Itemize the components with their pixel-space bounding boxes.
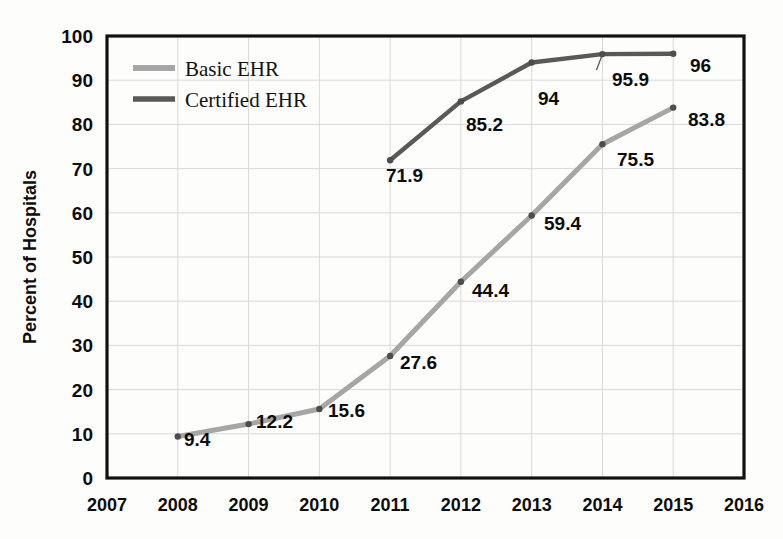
x-tick-label: 2013: [512, 495, 552, 515]
data-point-marker: [175, 433, 181, 439]
data-label-59-4: 59.4: [544, 213, 581, 234]
data-label-15-6: 15.6: [328, 400, 365, 421]
legend-label-basic-ehr: Basic EHR: [185, 57, 279, 81]
data-label-94: 94: [538, 88, 560, 109]
data-point-marker: [458, 98, 464, 104]
data-point-marker: [387, 353, 393, 359]
data-point-marker: [670, 104, 676, 110]
y-tick-label: 100: [61, 26, 93, 47]
y-tick-label: 0: [82, 468, 93, 489]
data-point-marker: [458, 279, 464, 285]
y-tick-label: 70: [72, 159, 93, 180]
data-label-95-9: 95.9: [612, 69, 649, 90]
y-tick-label: 20: [72, 380, 93, 401]
y-tick-label: 30: [72, 335, 93, 356]
data-label-9-4: 9.4: [184, 429, 211, 450]
data-point-marker: [528, 212, 534, 218]
data-label-44-4: 44.4: [472, 280, 509, 301]
line-chart: 0102030405060708090100 20072008200920102…: [0, 0, 783, 539]
data-label-27-6: 27.6: [400, 352, 437, 373]
x-tick-label: 2008: [158, 495, 198, 515]
data-label-12-2: 12.2: [256, 411, 293, 432]
x-tick-label: 2011: [371, 495, 410, 515]
x-tick-label: 2014: [582, 495, 622, 515]
data-label-75-5: 75.5: [617, 149, 654, 170]
x-tick-label: 2016: [724, 495, 764, 515]
y-tick-label: 80: [72, 114, 93, 135]
x-tick-label: 2010: [299, 495, 339, 515]
y-tick-label: 10: [72, 424, 93, 445]
y-tick-label: 40: [72, 291, 93, 312]
data-label-83-8: 83.8: [688, 109, 725, 130]
x-tick-label: 2007: [87, 495, 127, 515]
y-tick-label: 50: [72, 247, 93, 268]
legend-label-certified-ehr: Certified EHR: [185, 88, 307, 112]
x-tick-label: 2009: [229, 495, 269, 515]
data-point-marker: [599, 141, 605, 147]
x-tick-label: 2012: [441, 495, 481, 515]
data-label-85-2: 85.2: [466, 114, 503, 135]
data-point-marker: [316, 406, 322, 412]
data-point-marker: [245, 421, 251, 427]
data-point-marker: [387, 157, 393, 163]
y-tick-label: 90: [72, 70, 93, 91]
data-point-marker: [670, 50, 676, 56]
x-tick-label: 2015: [653, 495, 693, 515]
data-label-71-9: 71.9: [386, 165, 423, 186]
data-label-96: 96: [690, 55, 711, 76]
y-tick-label: 60: [72, 203, 93, 224]
y-axis-title: Percent of Hospitals: [20, 170, 40, 344]
data-point-marker: [528, 59, 534, 65]
chart-container: 0102030405060708090100 20072008200920102…: [0, 0, 783, 539]
chart-background: [0, 0, 783, 539]
